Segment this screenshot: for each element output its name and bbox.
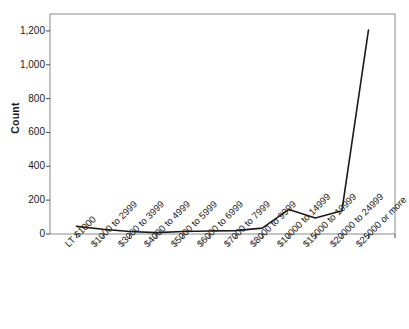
x-axis-tick-label: $25000 or more	[354, 195, 409, 250]
